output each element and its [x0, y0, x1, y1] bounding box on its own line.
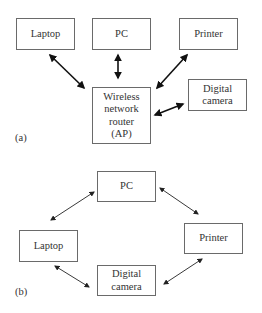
node-a-pc: PC	[92, 18, 151, 50]
node-a-printer: Printer	[179, 18, 238, 50]
node-label-line: camera	[202, 95, 232, 108]
node-label-line: camera	[111, 281, 141, 294]
edge-laptop-camera	[55, 266, 89, 287]
node-a-router: Wireless network router (AP)	[92, 87, 151, 144]
node-label: Laptop	[31, 28, 61, 41]
edge-pc-printer	[160, 188, 198, 214]
edge-camera-router	[155, 104, 183, 115]
edge-printer-camera	[164, 259, 202, 284]
node-b-printer: Printer	[184, 223, 243, 254]
node-b-pc: PC	[97, 171, 156, 202]
node-label: Laptop	[34, 240, 64, 253]
node-label-line: Digital	[112, 268, 141, 281]
node-label-line: router	[109, 116, 134, 129]
edge-printer-router	[157, 55, 187, 88]
node-label-line: Digital	[203, 83, 232, 96]
edge-laptop-router	[50, 55, 84, 88]
node-label: PC	[115, 28, 128, 41]
node-label-line: Wireless	[103, 91, 139, 104]
edge-pc-laptop	[51, 192, 94, 220]
node-a-laptop: Laptop	[16, 18, 75, 50]
node-label: Printer	[194, 28, 223, 41]
node-label-line: network	[104, 103, 138, 116]
panel-label-a: (a)	[15, 132, 27, 143]
node-b-camera: Digital camera	[97, 265, 156, 296]
node-label: Printer	[199, 232, 228, 245]
node-label-line: (AP)	[111, 128, 131, 141]
node-b-laptop: Laptop	[19, 230, 78, 262]
node-a-camera: Digital camera	[188, 79, 247, 111]
node-label: PC	[120, 180, 133, 193]
panel-label-b: (b)	[15, 286, 27, 297]
